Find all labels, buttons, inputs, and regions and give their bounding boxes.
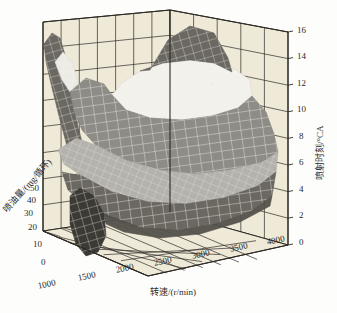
y-tick-30: 30 [24,209,33,218]
z-axis-title: 喷射时刻/°CA [316,125,325,180]
z-tick-2: 2 [299,211,304,220]
surface-plot-figure: 16 14 12 10 8 6 4 2 0 1000 1500 2000 250… [0,0,337,313]
z-tick-12: 12 [297,79,306,88]
y-tick-0: 0 [41,258,46,267]
z-tick-10: 10 [297,105,306,114]
z-tick-8: 8 [299,132,304,141]
z-tick-14: 14 [297,52,306,61]
z-axis-ticks [288,31,293,245]
y-tick-10: 10 [33,240,42,249]
z-tick-6: 6 [299,158,304,167]
z-tick-16: 16 [297,26,306,35]
z-tick-0: 0 [299,238,304,247]
y-tick-20: 20 [28,223,37,232]
z-tick-4: 4 [299,185,304,194]
x-axis-title: 转速/(r/min) [150,288,196,297]
y-tick-40: 40 [27,196,36,205]
plot-canvas [0,0,337,313]
